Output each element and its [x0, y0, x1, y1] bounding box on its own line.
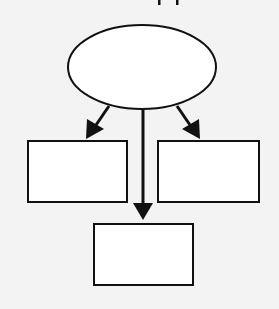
flow-diagram	[0, 0, 279, 309]
arrow-to-bottom-node	[133, 110, 153, 220]
root-node	[68, 25, 216, 109]
cut-off-title-fragment	[158, 0, 179, 5]
bottom-node	[94, 224, 193, 285]
right-node	[158, 141, 259, 202]
diagram-svg	[0, 0, 279, 309]
arrow-to-left-node	[86, 106, 109, 139]
arrow-to-right-node	[177, 106, 200, 139]
left-node	[28, 141, 127, 202]
